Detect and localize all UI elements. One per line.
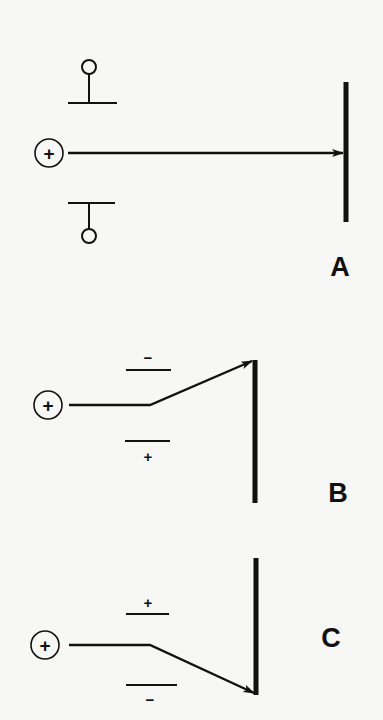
panel-c: + + − C (31, 558, 341, 708)
source-sign: + (39, 635, 50, 656)
source-sign: + (42, 395, 53, 416)
bottom-plate: + (125, 441, 170, 465)
positive-source-icon: + (34, 391, 62, 419)
top-plate: + (126, 594, 169, 614)
bottom-plate-sign: − (146, 691, 155, 708)
panel-b: + − + B (34, 349, 348, 508)
panel-label-c: C (321, 623, 341, 653)
terminal-circle-icon (82, 60, 96, 74)
positive-source-icon: + (31, 631, 59, 659)
bottom-plate: − (126, 685, 177, 708)
positive-source-icon: + (35, 139, 63, 167)
bottom-plate-sign: + (144, 448, 153, 465)
beam-deflection-diagram: + A + − + B (0, 0, 383, 720)
terminal-circle-icon (82, 229, 96, 243)
top-plate-sign: + (144, 594, 153, 611)
panel-label-a: A (330, 252, 350, 282)
top-plate-sign: − (144, 349, 153, 366)
source-sign: + (43, 143, 54, 164)
particle-beam-arrow (69, 361, 252, 405)
panel-label-b: B (328, 478, 348, 508)
top-plate (68, 60, 117, 103)
panel-a: + A (35, 60, 350, 282)
bottom-plate (68, 203, 115, 243)
top-plate: − (126, 349, 171, 370)
